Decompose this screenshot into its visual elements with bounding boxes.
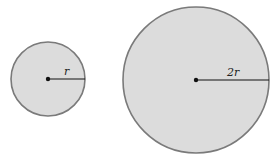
small-center-dot	[46, 77, 50, 81]
large-radius-label: 2r	[226, 66, 240, 79]
large-center-dot	[194, 78, 198, 82]
small-radius-label: r	[64, 65, 70, 78]
circle-diagram: r 2r	[0, 0, 278, 162]
large-circle-group: 2r	[123, 7, 269, 153]
small-circle-group: r	[11, 42, 85, 116]
